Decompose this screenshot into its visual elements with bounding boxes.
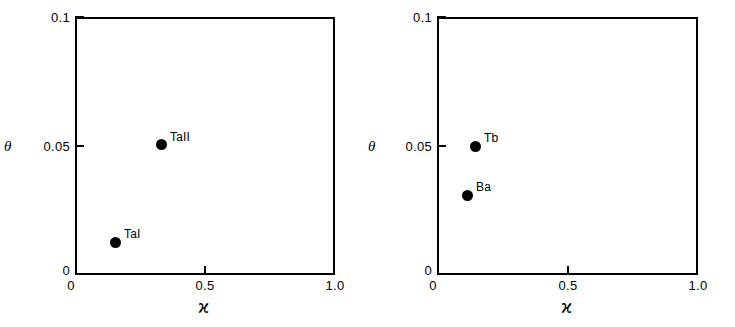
- data-point-marker: [462, 190, 473, 201]
- scatter-plot-figure: 0.1 0.05 0 0 0.5 1.0 θ ϰ TaII TaI 0.1 0.…: [0, 0, 735, 327]
- x-tick-label-mid-right: 0.5: [545, 279, 591, 292]
- y-tick-label-zero-right: 0: [410, 264, 432, 277]
- x-tick-label-zero-right: 0: [422, 279, 444, 292]
- data-point-label: Ba: [476, 181, 491, 193]
- x-axis-title-right: ϰ: [561, 300, 572, 314]
- data-point-marker: [470, 141, 481, 152]
- y-tick-label-mid-left: 0.05: [20, 140, 70, 153]
- y-tick-top-left: [75, 16, 84, 18]
- data-point-marker: [110, 237, 121, 248]
- y-tick-mid-left: [75, 145, 84, 147]
- y-axis-title-left: θ: [4, 139, 11, 153]
- data-point-label: TaII: [170, 131, 190, 143]
- y-tick-top-right: [437, 16, 446, 18]
- x-tick-mid-left: [204, 266, 206, 275]
- y-tick-label-zero-left: 0: [48, 264, 70, 277]
- y-tick-label-mid-right: 0.05: [382, 140, 432, 153]
- x-tick-label-mid-left: 0.5: [182, 279, 228, 292]
- chart-panel-right: 0.1 0.05 0 0 0.5 1.0 θ ϰ Tb Ba: [368, 0, 735, 327]
- data-point-label: TaI: [124, 228, 141, 240]
- x-tick-mid-right: [567, 266, 569, 275]
- x-tick-label-zero-left: 0: [60, 279, 82, 292]
- chart-panel-left: 0.1 0.05 0 0 0.5 1.0 θ ϰ TaII TaI: [0, 0, 367, 327]
- x-axis-title-left: ϰ: [198, 300, 209, 314]
- x-tick-label-max-left: 1.0: [312, 279, 358, 292]
- data-point-label: Tb: [484, 132, 498, 144]
- y-tick-mid-right: [437, 145, 446, 147]
- y-axis-title-right: θ: [368, 139, 375, 153]
- y-tick-label-top-right: 0.1: [388, 11, 432, 24]
- data-point-marker: [156, 139, 167, 150]
- x-tick-label-max-right: 1.0: [675, 279, 721, 292]
- y-tick-label-top-left: 0.1: [26, 11, 70, 24]
